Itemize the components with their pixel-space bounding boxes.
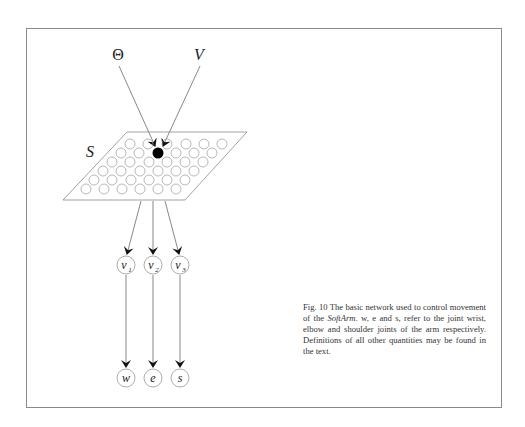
caption-emphasis: SoftArm <box>327 313 355 323</box>
svg-text:2: 2 <box>155 266 159 274</box>
theta-label: Θ <box>112 46 124 63</box>
arrow-to-v3 <box>165 201 179 254</box>
active-node <box>153 148 164 159</box>
v3-node: v 3 <box>171 256 189 274</box>
figure-caption: Fig. 10 The basic network used to contro… <box>303 302 486 357</box>
e-node: e <box>144 369 162 387</box>
v1-node: v 1 <box>117 256 135 274</box>
svg-text:3: 3 <box>181 266 186 274</box>
s-node: s <box>171 369 189 387</box>
svg-text:v: v <box>121 258 127 272</box>
v-input-label: V <box>194 46 206 63</box>
arrow-to-v1 <box>127 201 141 254</box>
w-node: w <box>117 369 135 387</box>
svg-text:s: s <box>178 371 183 385</box>
theta-arrow <box>119 66 155 146</box>
svg-text:e: e <box>150 371 156 385</box>
network-diagram: Θ V S v 1 v 2 v 3 <box>0 0 525 427</box>
v2-node: v 2 <box>144 256 162 274</box>
sheet-label: S <box>86 143 94 160</box>
svg-text:w: w <box>122 371 130 385</box>
svg-text:v: v <box>148 258 154 272</box>
node-grid <box>81 139 227 194</box>
v-arrow <box>163 66 200 146</box>
svg-text:v: v <box>175 258 181 272</box>
svg-text:1: 1 <box>128 266 132 274</box>
